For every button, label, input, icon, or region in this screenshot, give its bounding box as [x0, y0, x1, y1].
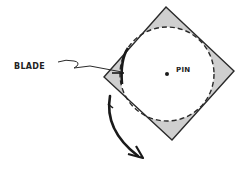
pin-label: PIN: [176, 66, 191, 74]
blade-leader-line: [58, 60, 122, 72]
blade-label: BLADE: [14, 62, 45, 71]
pin-icon: [165, 72, 169, 76]
blade-pin-diagram: [0, 0, 248, 180]
